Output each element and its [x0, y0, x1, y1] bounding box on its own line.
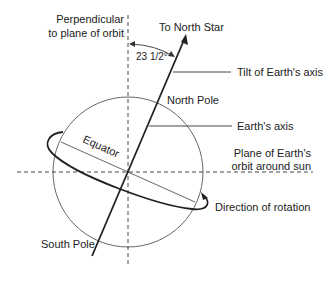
rotation-label: Direction of rotation: [215, 201, 310, 213]
angle-label: 23 1/2°: [136, 51, 168, 62]
perpendicular-label-1: Perpendicular: [56, 13, 124, 25]
tilt-label: Tilt of Earth's axis: [237, 66, 324, 78]
angle-arrow-left-icon: [129, 41, 135, 47]
perpendicular-label-2: to plane of orbit: [48, 27, 124, 39]
south-pole-label: South Pole: [41, 238, 95, 250]
north-star-label: To North Star: [159, 21, 224, 33]
earths-axis-label: Earth's axis: [237, 120, 294, 132]
plane-label-1: Plane of Earth's: [234, 147, 312, 159]
earth-tilt-diagram: Perpendicular to plane of orbit To North…: [0, 0, 335, 281]
plane-label-2: orbit around sun: [232, 160, 312, 172]
equator-label: Equator: [81, 133, 121, 160]
north-pole-label: North Pole: [167, 94, 219, 106]
